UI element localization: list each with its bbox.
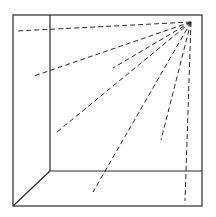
dashed-rays xyxy=(17,22,191,201)
diagram-canvas xyxy=(0,0,216,217)
dashed-ray-6 xyxy=(161,22,191,140)
dashed-ray-4 xyxy=(57,22,191,132)
dashed-ray-1 xyxy=(17,22,191,31)
perspective-diagram xyxy=(0,0,216,217)
dashed-ray-7 xyxy=(185,22,191,201)
dashed-ray-2 xyxy=(34,22,191,76)
dashed-ray-3 xyxy=(113,22,191,68)
dashed-ray-5 xyxy=(93,22,191,192)
outer-square xyxy=(13,15,202,206)
floor-diagonal-edge xyxy=(13,171,50,206)
